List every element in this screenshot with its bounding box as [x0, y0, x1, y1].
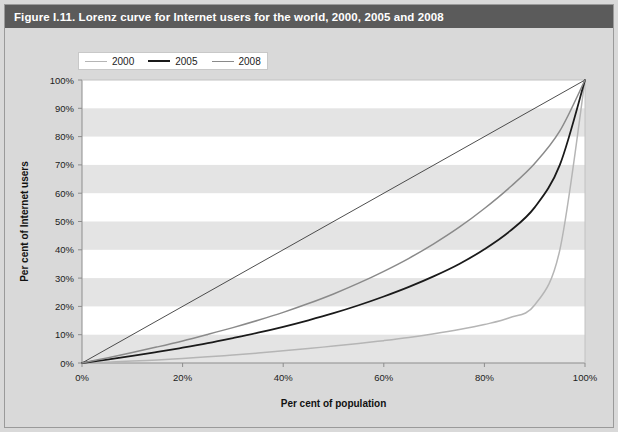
- x-tick-label: 80%: [475, 372, 495, 383]
- y-tick-label: 70%: [55, 159, 75, 170]
- y-axis-ticks: 0%10%20%30%40%50%60%70%80%90%100%: [50, 75, 82, 369]
- x-tick-label: 0%: [75, 372, 89, 383]
- y-tick-label: 0%: [60, 358, 74, 369]
- y-tick-label: 80%: [55, 131, 75, 142]
- y-tick-label: 60%: [55, 188, 75, 199]
- x-axis-ticks: 0%20%40%60%80%100%: [75, 363, 598, 383]
- lorenz-curve-chart: 0%10%20%30%40%50%60%70%80%90%100% 0%20%4…: [0, 0, 618, 432]
- y-tick-label: 20%: [55, 301, 75, 312]
- x-tick-label: 20%: [173, 372, 193, 383]
- x-tick-label: 100%: [573, 372, 598, 383]
- x-tick-label: 40%: [274, 372, 294, 383]
- plot-area-wrapper: 0%10%20%30%40%50%60%70%80%90%100% 0%20%4…: [0, 0, 618, 432]
- y-axis-title: Per cent of Internet users: [19, 161, 30, 282]
- y-tick-label: 90%: [55, 103, 75, 114]
- y-tick-label: 100%: [50, 75, 75, 86]
- y-tick-label: 30%: [55, 273, 75, 284]
- y-tick-label: 50%: [55, 216, 75, 227]
- figure-container: Figure I.11. Lorenz curve for Internet u…: [0, 0, 618, 432]
- x-tick-label: 60%: [374, 372, 394, 383]
- x-axis-title: Per cent of population: [281, 398, 387, 409]
- y-tick-label: 10%: [55, 329, 75, 340]
- y-tick-label: 40%: [55, 244, 75, 255]
